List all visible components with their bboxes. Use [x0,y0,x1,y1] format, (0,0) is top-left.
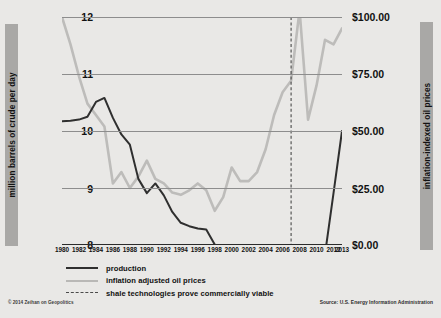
chart-legend: production inflation adjusted oil prices… [66,262,366,300]
plot-area [62,17,342,245]
right-axis-title: inflation-indexed oil prices [422,83,431,190]
series-line-production [62,98,342,245]
legend-item-prices: inflation adjusted oil prices [66,275,366,288]
series-line-inflation-adjusted-oil-prices [62,17,342,211]
y2-tick-50: $50.00 [352,125,422,137]
x-tick-1980: 1980 [55,246,69,253]
legend-item-shale: shale technologies prove commercially vi… [66,287,366,300]
gridline-10 [62,131,342,132]
left-axis-title-bar: million barrels of crude per day [5,24,18,246]
x-tick-1996: 1996 [191,246,205,253]
legend-label-production: production [106,264,146,273]
legend-label-shale: shale technologies prove commercially vi… [106,289,274,298]
y2-tick-25: $25.00 [352,183,422,195]
y2-tick-75: $75.00 [352,68,422,80]
x-tick-1994: 1994 [174,246,188,253]
x-tick-2008: 2008 [292,246,306,253]
y2-tick-100: $100.00 [352,11,422,23]
legend-swatch-shale-dashed-icon [66,288,98,298]
x-tick-1988: 1988 [123,246,137,253]
x-tick-1984: 1984 [89,246,103,253]
x-tick-2013: 2013 [335,246,349,253]
x-tick-2000: 2000 [225,246,239,253]
x-tick-2002: 2002 [242,246,256,253]
chart-figure: million barrels of crude per day inflati… [0,0,441,318]
x-tick-2004: 2004 [258,246,272,253]
legend-item-production: production [66,262,366,275]
x-tick-2006: 2006 [275,246,289,253]
x-tick-1986: 1986 [106,246,120,253]
legend-label-prices: inflation adjusted oil prices [106,276,206,285]
x-tick-1992: 1992 [157,246,171,253]
x-axis-tick-labels: 1980198219841986198819901992199419961998… [62,246,342,258]
legend-swatch-production-icon [66,263,98,273]
gridline-11 [62,74,342,75]
right-axis-title-bar: inflation-indexed oil prices [420,22,433,250]
legend-swatch-prices-icon [66,276,98,286]
x-tick-2010: 2010 [309,246,323,253]
source-note: Source: U.S. Energy Information Administ… [320,300,433,305]
gridline-9 [62,188,342,189]
gridline-12 [62,17,342,18]
copyright-credit: © 2014 Zeihan on Geopolitics [8,300,74,305]
x-tick-1982: 1982 [72,246,86,253]
left-axis-title: million barrels of crude per day [7,72,16,197]
x-tick-1990: 1990 [140,246,154,253]
x-tick-1998: 1998 [208,246,222,253]
y2-tick-0: $0.00 [352,239,422,251]
